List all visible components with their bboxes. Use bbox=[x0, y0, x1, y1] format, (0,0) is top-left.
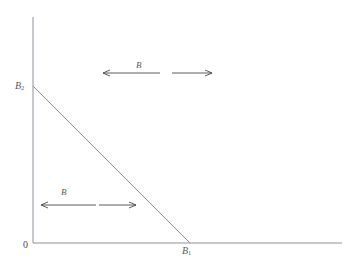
x-intercept-subscript: 1 bbox=[188, 249, 191, 256]
origin-label: 0 bbox=[23, 239, 28, 250]
lower-right-arrow bbox=[99, 202, 136, 208]
y-intercept-subscript: 2 bbox=[21, 84, 24, 91]
upper-right-arrow bbox=[172, 70, 212, 76]
x-intercept-label: B1 bbox=[182, 245, 191, 256]
lower-left-arrow bbox=[41, 202, 96, 208]
upper-region-prime: ˙ bbox=[142, 60, 144, 66]
upper-region-label: B˙ bbox=[136, 60, 144, 70]
lower-region-prime: ˙ bbox=[67, 187, 69, 193]
y-intercept-label: B2 bbox=[15, 80, 24, 91]
upper-left-arrow bbox=[103, 70, 160, 76]
diagram-canvas bbox=[0, 0, 352, 271]
lower-region-label: B˙ bbox=[61, 187, 69, 197]
figure-root: B2 B1 0 B˙ B˙ bbox=[0, 0, 352, 271]
budget-line bbox=[33, 86, 190, 243]
